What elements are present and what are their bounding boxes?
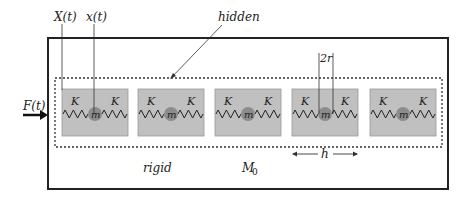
mass-label: m xyxy=(91,109,100,120)
spring-label-left: K xyxy=(223,95,233,108)
hidden-label: hidden xyxy=(218,10,260,24)
unit-cell: mKK xyxy=(370,89,436,136)
two-r-label: 2r xyxy=(319,52,333,65)
metamaterial-diagram: mKKmKKmKKmKKmKK X(t) x(t) hidden 2r F(t)… xyxy=(0,0,469,202)
spring-label-left: K xyxy=(146,95,156,108)
unit-cell: mKK xyxy=(62,89,128,136)
mass-label: m xyxy=(321,109,330,120)
spring-label-left: K xyxy=(70,95,80,108)
M0-subscript: 0 xyxy=(252,167,258,177)
h-arrowhead-right xyxy=(353,152,358,157)
mass-label: m xyxy=(399,109,408,120)
unit-cell: mKK xyxy=(138,89,204,136)
x-label: x(t) xyxy=(86,10,107,24)
spring-label-left: K xyxy=(378,95,388,108)
spring-label-right: K xyxy=(186,95,196,108)
spring-label-right: K xyxy=(340,95,350,108)
rigid-label: rigid xyxy=(143,161,172,175)
h-arrowhead-left xyxy=(292,152,297,157)
unit-cell: mKK xyxy=(292,89,358,136)
spring-label-right: K xyxy=(263,95,273,108)
spring-label-right: K xyxy=(110,95,120,108)
spring-label-left: K xyxy=(300,95,310,108)
X-label: X(t) xyxy=(53,10,77,24)
unit-cell: mKK xyxy=(215,89,281,136)
cells: mKKmKKmKKmKKmKK xyxy=(62,89,436,136)
mass-label: m xyxy=(167,109,176,120)
spring-label-right: K xyxy=(418,95,428,108)
h-label: h xyxy=(321,147,329,161)
mass-label: m xyxy=(244,109,253,120)
force-label: F(t) xyxy=(22,99,46,113)
hidden-leader-line xyxy=(171,25,222,78)
